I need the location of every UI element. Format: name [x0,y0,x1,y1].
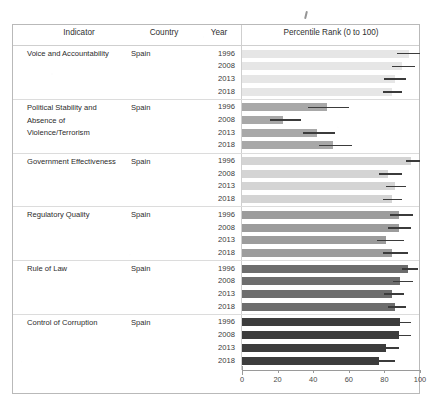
indicator-group: Rule of LawSpain1996200820132018 [13,261,419,315]
chart-row [242,275,420,288]
indicator-label: Regulatory Quality [27,209,127,222]
column-header-country: Country [131,28,197,37]
error-bar [303,132,335,134]
axis-tick-label: 100 [414,375,426,384]
axis-baseline [242,370,420,371]
year-label: 2008 [197,114,235,127]
error-bar [392,335,412,337]
stray-pen-mark-icon [304,11,308,19]
year-label: 1996 [197,101,235,114]
error-bar [379,347,399,349]
year-label: 2018 [197,139,235,152]
percentile-bar [242,170,388,178]
year-label: 2018 [197,355,235,368]
axis-tick-label: 20 [273,375,281,384]
indicator-group: Regulatory QualitySpain1996200820132018 [13,207,419,261]
error-bar [406,160,420,162]
error-bar [384,293,404,295]
error-bar [390,214,413,216]
error-bar [379,173,402,175]
country-label: Spain [131,156,150,169]
year-label: 1996 [197,263,235,276]
error-bar [392,66,415,68]
percentile-bar [242,265,408,273]
percentile-bar [242,249,392,257]
year-label: 1996 [197,155,235,168]
indicator-label: Government Effectiveness [27,156,127,169]
percentile-bar [242,290,392,298]
axis-tick [313,370,314,373]
percentile-bar [242,224,399,232]
error-bar [388,227,411,229]
year-label: 2008 [197,60,235,73]
chart-row [242,288,420,301]
chart-row [242,209,420,222]
chart-row [242,180,420,193]
axis-tick [278,370,279,373]
error-bar [383,199,403,201]
year-label: 2018 [197,193,235,206]
indicator-label: Control of Corruption [27,317,127,330]
column-header-year: Year [197,28,241,37]
indicator-group: Control of CorruptionSpain19962008201320… [13,315,419,369]
chart-row [242,60,420,73]
indicator-group: Voice and AccountabilitySpain19962008201… [13,46,419,100]
year-label: 2008 [197,168,235,181]
error-bar [377,240,404,242]
year-label: 2018 [197,86,235,99]
error-bar [386,186,406,188]
year-label: 2013 [197,342,235,355]
report-page: Indicator Country Year Percentile Rank (… [0,0,433,411]
table-header-row: Indicator Country Year Percentile Rank (… [13,25,419,46]
chart-row [242,193,420,206]
percentile-bar [242,211,399,219]
axis-tick-label: 40 [309,375,317,384]
error-bar [384,78,405,80]
indicator-label: Political Stability and Absence of Viole… [27,102,127,140]
indicator-label: Voice and Accountability [27,48,127,61]
chart-row [242,101,420,114]
percentile-bar [242,157,411,165]
chart-row [242,127,420,140]
chart-row [242,114,420,127]
axis-tick-label: 80 [380,375,388,384]
table-body: Voice and AccountabilitySpain19962008201… [13,46,419,370]
percentile-bar [242,236,386,244]
percentile-bar [242,75,395,83]
year-label: 2013 [197,180,235,193]
indicator-group: Political Stability and Absence of Viole… [13,100,419,154]
percentile-bar [242,50,409,58]
chart-row [242,139,420,152]
percentile-bar [242,344,386,352]
chart-row [242,168,420,181]
year-label: 2018 [197,301,235,314]
chart-row [242,222,420,235]
error-bar [402,268,418,270]
chart-row [242,342,420,355]
year-label: 1996 [197,209,235,222]
indicator-label: Rule of Law [27,263,127,276]
year-label: 2008 [197,329,235,342]
error-bar [372,360,395,362]
year-label: 2018 [197,247,235,260]
axis-tick-label: 60 [345,375,353,384]
indicator-group: Government EffectivenessSpain19962008201… [13,154,419,208]
error-bar [397,53,420,55]
year-label: 2013 [197,127,235,140]
country-label: Spain [131,48,150,61]
year-label: 2008 [197,222,235,235]
percentile-bar [242,277,400,285]
chart-row [242,48,420,61]
country-label: Spain [131,209,150,222]
chart-row [242,301,420,314]
column-header-percentile-rank: Percentile Rank (0 to 100) [242,28,420,37]
percentile-bar [242,182,395,190]
chart-row [242,316,420,329]
percentile-bar [242,331,399,339]
axis-tick-label: 0 [240,375,244,384]
chart-row [242,86,420,99]
chart-row [242,247,420,260]
chart-row [242,73,420,86]
chart-row [242,329,420,342]
year-label: 2013 [197,288,235,301]
